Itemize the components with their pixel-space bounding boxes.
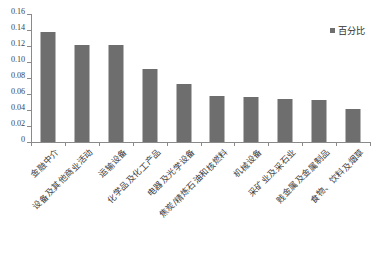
bar[interactable] (142, 69, 157, 142)
x-axis-category-label: 焦炭/精炼石油和核燃料 (158, 147, 231, 220)
bar-slot (65, 14, 99, 142)
bar[interactable] (40, 32, 55, 142)
x-axis-category-label: 机械设备 (232, 147, 265, 180)
bars-layer (31, 14, 370, 142)
bar[interactable] (74, 45, 89, 142)
y-axis-tick-label: 0.04 (11, 104, 25, 112)
bar[interactable] (210, 96, 225, 142)
bar-chart: 00.020.040.060.080.100.120.140.16 金融中介设备… (0, 0, 383, 254)
y-axis-tick-label: 0.12 (11, 40, 25, 48)
bar[interactable] (108, 45, 123, 142)
y-axis-tick-label: 0.02 (11, 120, 25, 128)
bar[interactable] (244, 97, 259, 142)
chart-legend: 百分比 (330, 26, 365, 35)
legend-color-swatch (330, 28, 335, 33)
y-axis-tick-label: 0.16 (11, 8, 25, 16)
bar[interactable] (346, 109, 361, 142)
x-axis-labels: 金融中介设备及其他商业活动运输设备化学品及化工产品电器及光学设备焦炭/精炼石油和… (31, 142, 370, 252)
x-axis-category-label: 运输设备 (96, 147, 129, 180)
y-axis-tick-label: 0.08 (11, 72, 25, 80)
bar[interactable] (312, 100, 327, 142)
x-axis-category-label: 金融中介 (28, 147, 61, 180)
bar-slot (167, 14, 201, 142)
x-axis-tick-mark (370, 142, 371, 146)
bar[interactable] (278, 99, 293, 142)
legend-label: 百分比 (338, 26, 365, 35)
bar-slot (201, 14, 235, 142)
bar[interactable] (176, 84, 191, 142)
y-axis-tick-label: 0.06 (11, 88, 25, 96)
y-axis-tick-label: 0 (21, 136, 25, 144)
bar-slot (133, 14, 167, 142)
bar-slot (31, 14, 65, 142)
y-axis-tick-label: 0.14 (11, 24, 25, 32)
bar-slot (268, 14, 302, 142)
bar-slot (99, 14, 133, 142)
x-axis-category-label: 设备及其他商业活动 (31, 147, 95, 211)
bar-slot (234, 14, 268, 142)
y-axis-tick-label: 0.10 (11, 56, 25, 64)
